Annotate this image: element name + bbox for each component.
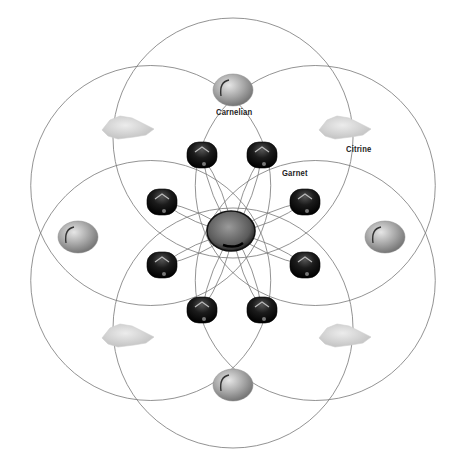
stone-highlight bbox=[202, 317, 206, 321]
center-stone bbox=[207, 211, 255, 251]
stone-highlight bbox=[305, 209, 309, 213]
carnelian-stone bbox=[213, 369, 253, 401]
garnet-stone bbox=[290, 252, 320, 278]
stone-highlight bbox=[262, 317, 266, 321]
stone-highlight bbox=[305, 272, 309, 276]
label-carnelian: Carnelian bbox=[216, 107, 252, 117]
citrine-stone bbox=[319, 324, 371, 347]
crystal-grid-diagram bbox=[0, 0, 475, 462]
garnet-stone bbox=[147, 189, 177, 215]
stone-highlight bbox=[162, 272, 166, 276]
citrine-stone bbox=[102, 324, 154, 347]
garnet-stone bbox=[290, 189, 320, 215]
label-citrine: Citrine bbox=[346, 144, 371, 154]
stones bbox=[58, 74, 405, 401]
carnelian-stone bbox=[58, 221, 98, 253]
garnet-stone bbox=[147, 252, 177, 278]
carnelian-stone bbox=[365, 221, 405, 253]
garnet-stone bbox=[247, 297, 277, 323]
garnet-stone bbox=[247, 142, 277, 168]
stone-highlight bbox=[262, 162, 266, 166]
citrine-stone bbox=[319, 116, 371, 139]
citrine-stone bbox=[102, 116, 154, 139]
garnet-stone bbox=[187, 142, 217, 168]
stone-highlight bbox=[162, 209, 166, 213]
garnet-stone bbox=[187, 297, 217, 323]
carnelian-stone bbox=[213, 74, 253, 106]
label-garnet: Garnet bbox=[282, 168, 308, 178]
stone-highlight bbox=[202, 162, 206, 166]
